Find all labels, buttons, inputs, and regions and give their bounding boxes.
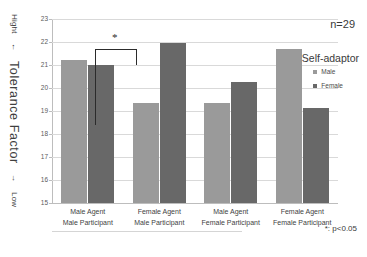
y-axis-tick-label: 15 <box>28 199 48 206</box>
legend-swatch-icon <box>313 70 317 74</box>
y-axis-high-arrow-icon: ← <box>10 43 19 51</box>
legend-label: Male <box>321 68 335 75</box>
y-axis-tick-mark <box>49 19 52 20</box>
y-axis-tick-mark <box>49 203 52 204</box>
gridline <box>52 42 338 43</box>
x-axis-agent-label: Male Agent <box>52 206 124 217</box>
bar-female-group-4 <box>303 108 329 203</box>
bar-male-group-1 <box>61 60 87 203</box>
gridline <box>52 203 338 204</box>
y-axis-tick-mark <box>49 157 52 158</box>
legend-title: Self-adaptor <box>302 52 359 64</box>
y-axis-high-label: Hight <box>10 14 19 34</box>
y-axis-tick-mark <box>49 134 52 135</box>
x-axis-participant-label: Female Participant <box>195 217 267 228</box>
y-axis-tick-mark <box>49 111 52 112</box>
y-axis-title-group: Hight ← Tolerance Factor → Low <box>2 0 26 215</box>
p-value-note: *: p<0.05 <box>325 224 357 233</box>
gridline <box>52 19 338 20</box>
x-axis-labels: Male AgentMale ParticipantFemale AgentMa… <box>52 206 338 242</box>
legend-item-male[interactable]: Male <box>313 68 343 75</box>
bar-female-group-3 <box>231 82 257 203</box>
y-axis-tick-label: 17 <box>28 153 48 160</box>
legend-label: Female <box>321 82 343 89</box>
y-axis-low-arrow-icon: → <box>10 174 19 182</box>
y-axis-tick-mark <box>49 88 52 89</box>
y-axis-tick-mark <box>49 42 52 43</box>
x-axis-participant-label: Male Participant <box>52 217 124 228</box>
y-axis-tick-label: 18 <box>28 130 48 137</box>
legend: MaleFemale <box>313 68 343 89</box>
plot-area: 151617181920212223 * <box>52 19 338 203</box>
bar-male-group-2 <box>133 103 159 203</box>
legend-swatch-icon <box>313 84 317 88</box>
sample-size-label: n=29 <box>330 18 355 30</box>
y-axis-tick-label: 19 <box>28 107 48 114</box>
y-axis-tick-label: 22 <box>28 38 48 45</box>
y-axis-tick-mark <box>49 180 52 181</box>
x-axis-participant-label: Male Participant <box>124 217 196 228</box>
y-axis-title: Tolerance Factor <box>7 61 21 164</box>
chart-container: Hight ← Tolerance Factor → Low 151617181… <box>0 0 367 257</box>
x-axis-group-label: Male AgentFemale Participant <box>195 206 267 228</box>
bar-male-group-3 <box>204 103 230 203</box>
x-axis-agent-label: Female Agent <box>124 206 196 217</box>
bottom-divider <box>52 231 242 232</box>
y-axis-tick-label: 23 <box>28 15 48 22</box>
significance-asterisk: * <box>112 33 118 41</box>
y-axis-low-label: Low <box>10 192 19 207</box>
bar-male-group-4 <box>276 49 302 203</box>
y-axis-tick-label: 21 <box>28 61 48 68</box>
x-axis-group-label: Female AgentMale Participant <box>124 206 196 228</box>
bar-female-group-1 <box>88 65 114 203</box>
bar-female-group-2 <box>160 43 186 203</box>
y-axis-tick-label: 16 <box>28 176 48 183</box>
x-axis-agent-label: Male Agent <box>195 206 267 217</box>
x-axis-agent-label: Female Agent <box>267 206 339 217</box>
legend-item-female[interactable]: Female <box>313 82 343 89</box>
y-axis-tick-label: 20 <box>28 84 48 91</box>
y-axis-tick-mark <box>49 65 52 66</box>
x-axis-group-label: Male AgentMale Participant <box>52 206 124 228</box>
